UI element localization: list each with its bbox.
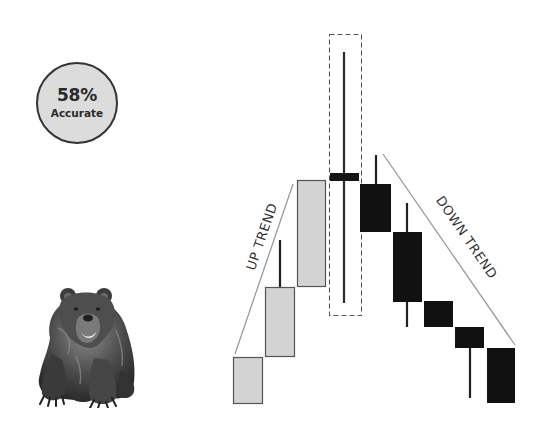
candle-bear-5 [487,348,515,403]
candle-bear-2 [393,203,422,327]
candlestick-diagram: UP TREND DOWN TREND [0,0,546,428]
candle-bear-3 [424,301,453,327]
candle-bear-4 [455,327,484,398]
candle-bull-3 [298,181,326,287]
candle-bull-2 [266,240,295,357]
candle-bear-1 [360,155,391,232]
down-trend-label: DOWN TREND [433,193,500,281]
candle-bull-1 [234,358,263,404]
candle-doji [330,52,359,303]
